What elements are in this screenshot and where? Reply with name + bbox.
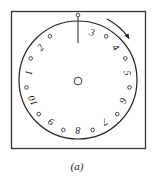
dial-number-6: 6 (117, 96, 129, 105)
pointer-hole (76, 13, 80, 17)
figure-caption: (a) (0, 160, 154, 172)
dial-number-1: 1 (23, 70, 35, 77)
dial-number-2: 2 (34, 42, 46, 53)
dial-hole (124, 57, 128, 61)
dial-number-10: 10 (25, 94, 39, 108)
rotation-arrow (107, 19, 128, 37)
dial-number-3: 3 (87, 26, 96, 38)
dial-number-8: 8 (76, 125, 81, 136)
dial-figure: 34567891012 (a) (0, 0, 154, 189)
dial-hole (62, 128, 66, 132)
dial-hole (128, 86, 132, 90)
dial-hole (116, 112, 120, 116)
dial-number-5: 5 (122, 70, 134, 77)
dial-number-7: 7 (99, 116, 110, 128)
dial-number-9: 9 (46, 116, 56, 128)
dial-hole (29, 57, 33, 61)
dial-hole (91, 128, 95, 132)
dial-number-4: 4 (110, 42, 122, 53)
dial-hole (25, 86, 29, 90)
dial-hole (37, 112, 41, 116)
center-hole (74, 77, 82, 85)
dial-hole (48, 35, 52, 39)
dial-hole (104, 35, 108, 39)
